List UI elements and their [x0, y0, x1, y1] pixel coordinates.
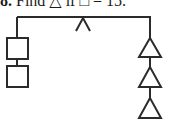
- square-icon: [7, 38, 28, 59]
- triangle-icon: [139, 38, 161, 57]
- triangle-icon: [139, 98, 161, 118]
- square-icon: [7, 66, 28, 87]
- fulcrum-caret-icon: [76, 18, 90, 31]
- balance-diagram: [0, 0, 170, 122]
- triangle-icon: [139, 67, 161, 87]
